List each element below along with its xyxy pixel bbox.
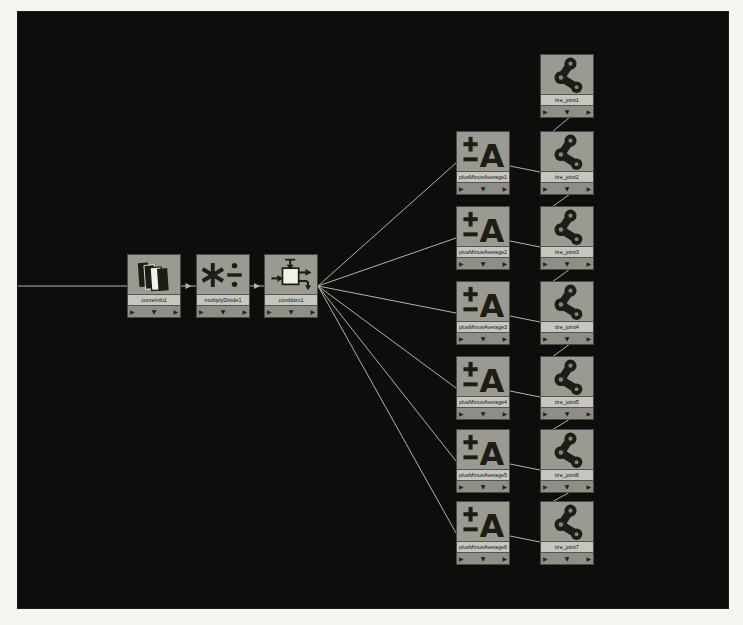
node-tire_joint5[interactable]: tire_joint5▶▼▶ — [540, 356, 594, 420]
output-arrow-icon[interactable]: ▶ — [242, 309, 247, 315]
output-arrow-icon[interactable]: ▶ — [586, 109, 591, 115]
output-arrow-icon[interactable]: ▶ — [586, 411, 591, 417]
node-plusMinusAverage6[interactable]: A plusMinusAverage6▶▼▶ — [456, 501, 510, 565]
node-footer: ▶▼▶ — [457, 332, 509, 344]
node-plusMinusAverage2[interactable]: A plusMinusAverage2▶▼▶ — [456, 206, 510, 270]
node-plusMinusAverage1[interactable]: A plusMinusAverage1▶▼▶ — [456, 131, 510, 195]
node-label: plusMinusAverage4 — [457, 396, 509, 407]
input-arrow-icon[interactable]: ▶ — [543, 261, 548, 267]
connection-wire[interactable] — [510, 391, 540, 397]
node-curveInfo1[interactable]: curveInfo1▶▼▶ — [127, 254, 181, 318]
connection-wire[interactable] — [318, 238, 456, 286]
menu-arrow-icon[interactable]: ▼ — [481, 261, 486, 267]
menu-arrow-icon[interactable]: ▼ — [565, 484, 570, 490]
connection-wire[interactable] — [318, 286, 456, 533]
joint-chain-icon — [541, 357, 593, 396]
output-arrow-icon[interactable]: ▶ — [586, 336, 591, 342]
output-arrow-icon[interactable]: ▶ — [310, 309, 315, 315]
menu-arrow-icon[interactable]: ▼ — [221, 309, 226, 315]
connection-wire[interactable] — [318, 286, 456, 313]
input-arrow-icon[interactable]: ▶ — [543, 411, 548, 417]
svg-text:A: A — [479, 137, 504, 172]
menu-arrow-icon[interactable]: ▼ — [565, 556, 570, 562]
menu-arrow-icon[interactable]: ▼ — [152, 309, 157, 315]
menu-arrow-icon[interactable]: ▼ — [565, 186, 570, 192]
output-arrow-icon[interactable]: ▶ — [502, 261, 507, 267]
node-plusMinusAverage4[interactable]: A plusMinusAverage4▶▼▶ — [456, 356, 510, 420]
input-arrow-icon[interactable]: ▶ — [267, 309, 272, 315]
connection-wire[interactable] — [510, 536, 540, 542]
joint-chain-icon — [541, 207, 593, 246]
input-arrow-icon[interactable]: ▶ — [543, 336, 548, 342]
node-label: tire_joint4 — [541, 321, 593, 332]
menu-arrow-icon[interactable]: ▼ — [289, 309, 294, 315]
output-arrow-icon[interactable]: ▶ — [586, 484, 591, 490]
svg-text:A: A — [479, 212, 504, 247]
menu-arrow-icon[interactable]: ▼ — [481, 186, 486, 192]
input-arrow-icon[interactable]: ▶ — [130, 309, 135, 315]
plus-minus-average-icon: A — [457, 502, 509, 541]
node-label: condition1 — [265, 294, 317, 305]
menu-arrow-icon[interactable]: ▼ — [565, 109, 570, 115]
connection-wire[interactable] — [318, 286, 456, 461]
output-arrow-icon[interactable]: ▶ — [502, 556, 507, 562]
input-arrow-icon[interactable]: ▶ — [459, 484, 464, 490]
joint-chain-icon — [541, 502, 593, 541]
node-plusMinusAverage3[interactable]: A plusMinusAverage3▶▼▶ — [456, 281, 510, 345]
node-label: tire_joint3 — [541, 246, 593, 257]
connection-wire[interactable] — [318, 163, 456, 286]
node-tire_joint6[interactable]: tire_joint6▶▼▶ — [540, 429, 594, 493]
menu-arrow-icon[interactable]: ▼ — [481, 336, 486, 342]
multiply-divide-icon — [197, 255, 249, 294]
input-arrow-icon[interactable]: ▶ — [543, 556, 548, 562]
node-plusMinusAverage5[interactable]: A plusMinusAverage5▶▼▶ — [456, 429, 510, 493]
output-arrow-icon[interactable]: ▶ — [586, 261, 591, 267]
menu-arrow-icon[interactable]: ▼ — [565, 261, 570, 267]
output-arrow-icon[interactable]: ▶ — [502, 336, 507, 342]
input-arrow-icon[interactable]: ▶ — [199, 309, 204, 315]
node-label: plusMinusAverage1 — [457, 171, 509, 182]
output-arrow-icon[interactable]: ▶ — [502, 484, 507, 490]
input-arrow-icon[interactable]: ▶ — [459, 336, 464, 342]
output-arrow-icon[interactable]: ▶ — [502, 186, 507, 192]
node-label: multiplyDivide1 — [197, 294, 249, 305]
node-label: plusMinusAverage2 — [457, 246, 509, 257]
menu-arrow-icon[interactable]: ▼ — [565, 336, 570, 342]
node-footer: ▶▼▶ — [265, 305, 317, 317]
node-tire_joint4[interactable]: tire_joint4▶▼▶ — [540, 281, 594, 345]
input-arrow-icon[interactable]: ▶ — [543, 109, 548, 115]
output-arrow-icon[interactable]: ▶ — [586, 556, 591, 562]
connection-wire[interactable] — [552, 117, 570, 132]
menu-arrow-icon[interactable]: ▼ — [481, 411, 486, 417]
menu-arrow-icon[interactable]: ▼ — [565, 411, 570, 417]
connection-wire[interactable] — [510, 241, 540, 247]
node-label: curveInfo1 — [128, 294, 180, 305]
node-tire_joint2[interactable]: tire_joint2▶▼▶ — [540, 131, 594, 195]
menu-arrow-icon[interactable]: ▼ — [481, 484, 486, 490]
node-tire_joint7[interactable]: tire_joint7▶▼▶ — [540, 501, 594, 565]
node-condition1[interactable]: condition1▶▼▶ — [264, 254, 318, 318]
output-arrow-icon[interactable]: ▶ — [586, 186, 591, 192]
input-arrow-icon[interactable]: ▶ — [459, 186, 464, 192]
connection-wire[interactable] — [510, 166, 540, 172]
node-footer: ▶▼▶ — [541, 552, 593, 564]
plus-minus-average-icon: A — [457, 430, 509, 469]
connection-wire[interactable] — [510, 464, 540, 470]
node-label: tire_joint1 — [541, 94, 593, 105]
node-tire_joint3[interactable]: tire_joint3▶▼▶ — [540, 206, 594, 270]
output-arrow-icon[interactable]: ▶ — [502, 411, 507, 417]
node-multiplyDivide1[interactable]: multiplyDivide1▶▼▶ — [196, 254, 250, 318]
connection-wire[interactable] — [510, 316, 540, 322]
input-arrow-icon[interactable]: ▶ — [459, 261, 464, 267]
svg-text:A: A — [479, 507, 504, 542]
hypergraph-canvas[interactable]: curveInfo1▶▼▶ multiplyDivide1▶▼▶ conditi… — [18, 12, 728, 608]
joint-chain-icon — [541, 55, 593, 94]
node-tire_joint1[interactable]: tire_joint1▶▼▶ — [540, 54, 594, 118]
output-arrow-icon[interactable]: ▶ — [173, 309, 178, 315]
input-arrow-icon[interactable]: ▶ — [459, 411, 464, 417]
node-label: tire_joint2 — [541, 171, 593, 182]
input-arrow-icon[interactable]: ▶ — [459, 556, 464, 562]
menu-arrow-icon[interactable]: ▼ — [481, 556, 486, 562]
input-arrow-icon[interactable]: ▶ — [543, 484, 548, 490]
input-arrow-icon[interactable]: ▶ — [543, 186, 548, 192]
